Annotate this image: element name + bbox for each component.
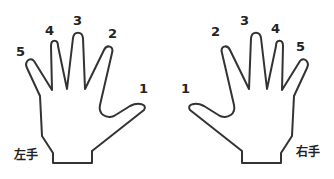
- left-finger-3-label: 3: [73, 14, 82, 27]
- left-finger-4-label: 4: [45, 24, 54, 37]
- left-hand-outline: [26, 33, 145, 163]
- right-finger-5-label: 5: [296, 40, 305, 53]
- right-finger-4-label: 4: [271, 22, 280, 35]
- left-finger-1-label: 1: [139, 82, 148, 95]
- right-hand-outline: [189, 33, 308, 163]
- right-hand-label: 右手: [296, 146, 320, 158]
- left-finger-2-label: 2: [108, 27, 117, 40]
- right-finger-2-label: 2: [211, 25, 220, 38]
- left-hand-label: 左手: [14, 149, 38, 161]
- right-finger-3-label: 3: [240, 14, 249, 27]
- right-finger-1-label: 1: [181, 82, 190, 95]
- left-finger-5-label: 5: [16, 45, 25, 58]
